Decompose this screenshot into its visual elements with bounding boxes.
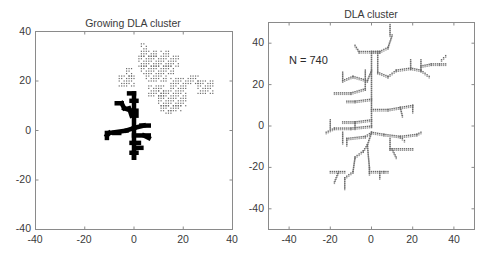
particle-count-annotation: N = 740 (289, 54, 328, 66)
ytick-label: 20 (19, 74, 31, 86)
ytick-label: -40 (249, 202, 264, 214)
ytick-label: 0 (258, 119, 264, 131)
growing-dla-plot: Growing DLA cluster 40 20 0 -20 -40 -40 … (16, 17, 238, 245)
ticks-left: 40 20 0 -20 -40 -40 -20 0 20 40 (16, 25, 238, 245)
ytick-label: -20 (16, 173, 31, 185)
plot-title-right: DLA cluster (344, 8, 398, 20)
dla-cluster-plot: DLA cluster N = 740 40 20 0 -20 -40 -40 … (249, 8, 475, 245)
ytick-label: 0 (25, 124, 31, 136)
xtick-label: -40 (27, 233, 42, 245)
plot-data-right (325, 24, 446, 190)
xtick-label: 0 (368, 233, 374, 245)
xtick-label: 40 (448, 233, 460, 245)
figure: Growing DLA cluster 40 20 0 -20 -40 -40 … (0, 0, 490, 253)
ytick-label: 40 (19, 25, 31, 37)
plot-data-left (107, 43, 213, 157)
xtick-label: 40 (226, 233, 238, 245)
xtick-label: -20 (76, 233, 91, 245)
ytick-label: 40 (252, 36, 264, 48)
ytick-label: 20 (252, 78, 264, 90)
ytick-label: -20 (249, 160, 264, 172)
ticks-right: 40 20 0 -20 -40 -40 -20 0 20 40 (249, 23, 475, 246)
plot-title-left: Growing DLA cluster (85, 17, 181, 29)
xtick-label: 20 (177, 233, 189, 245)
xtick-label: -40 (281, 233, 296, 245)
xtick-label: 0 (131, 233, 137, 245)
xtick-label: -20 (322, 233, 337, 245)
xtick-label: 20 (406, 233, 418, 245)
